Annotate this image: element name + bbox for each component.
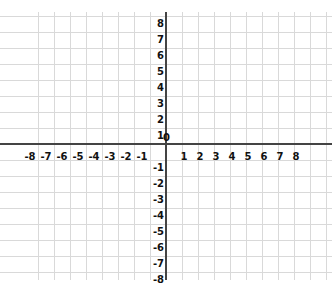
y-tick-label: -5 [153, 226, 164, 238]
y-tick-label: 5 [157, 66, 164, 78]
y-tick-label: 3 [157, 98, 164, 110]
x-tick-label: 1 [181, 151, 188, 163]
y-tick-label: -8 [153, 274, 164, 286]
y-tick-label: -3 [153, 194, 164, 206]
x-tick-label: 7 [277, 151, 284, 163]
x-tick-label: -3 [104, 151, 115, 163]
x-tick-label: -8 [24, 151, 35, 163]
x-tick-label: 2 [197, 151, 204, 163]
x-tick-label: -4 [88, 151, 99, 163]
x-tick-label: 4 [229, 151, 236, 163]
y-tick-label: -6 [153, 242, 164, 254]
y-tick-label: -7 [153, 258, 164, 270]
x-tick-label: 3 [213, 151, 220, 163]
y-tick-label: -1 [153, 162, 164, 174]
y-tick-label: 6 [157, 50, 164, 62]
origin-label: 0 [163, 132, 170, 143]
y-tick-label: -2 [153, 178, 164, 190]
y-axis [165, 12, 167, 280]
y-tick-label: 7 [157, 34, 164, 46]
y-tick-label: 4 [157, 82, 164, 94]
x-tick-label: 5 [245, 151, 252, 163]
x-tick-label: -5 [72, 151, 83, 163]
y-tick-label: 8 [157, 18, 164, 30]
x-tick-label: -7 [40, 151, 51, 163]
x-tick-label: -1 [136, 151, 147, 163]
y-tick-label: -4 [153, 210, 164, 222]
x-tick-label: -6 [56, 151, 67, 163]
x-tick-label: -2 [120, 151, 131, 163]
x-tick-label: 8 [293, 151, 300, 163]
y-tick-label: 2 [157, 114, 164, 126]
x-tick-label: 6 [261, 151, 268, 163]
